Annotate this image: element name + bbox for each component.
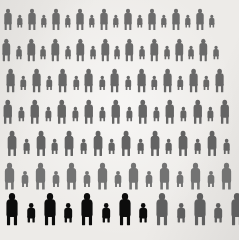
person-icon: [211, 202, 225, 228]
person-icon: [201, 75, 212, 94]
person-icon: [183, 14, 193, 32]
person-icon: [218, 99, 232, 126]
person-icon: [157, 162, 172, 192]
person-icon: [5, 130, 19, 158]
person-icon: [91, 130, 105, 158]
person-icon: [192, 138, 203, 159]
person-icon-highlighted: [116, 192, 134, 228]
pictogram-row: [0, 8, 239, 32]
person-icon-highlighted: [24, 202, 38, 228]
pictogram-row: [0, 99, 239, 126]
person-icon: [99, 38, 112, 63]
person-icon-highlighted: [61, 202, 75, 228]
person-icon: [26, 8, 38, 32]
person-icon: [63, 45, 73, 63]
person-icon: [126, 162, 141, 192]
person-icon: [153, 192, 171, 228]
person-icon: [135, 68, 148, 94]
person-icon: [112, 170, 124, 192]
person-icon: [106, 138, 117, 159]
person-icon: [187, 68, 200, 94]
person-icon: [55, 99, 69, 126]
pictogram-row: [0, 130, 239, 158]
person-icon: [211, 45, 221, 63]
person-icon: [97, 106, 108, 126]
person-icon: [39, 14, 49, 32]
person-icon: [1, 99, 15, 126]
person-icon-highlighted: [99, 202, 113, 228]
person-icon: [174, 202, 188, 228]
person-icon: [191, 192, 209, 228]
person-icon: [34, 130, 48, 158]
person-icon: [186, 45, 196, 63]
person-icon: [176, 130, 190, 158]
person-icon: [122, 8, 134, 32]
person-icon: [38, 45, 48, 63]
person-icon: [111, 14, 121, 32]
person-icon: [213, 68, 226, 94]
person-icon: [2, 162, 17, 192]
person-icon: [18, 75, 29, 94]
person-icon: [163, 99, 177, 126]
person-icon: [219, 162, 234, 192]
person-icon: [14, 45, 24, 63]
person-icon: [151, 106, 162, 126]
person-icon: [137, 45, 147, 63]
person-icon: [50, 8, 62, 32]
person-icon-highlighted: [136, 202, 150, 228]
pictogram-row: [0, 38, 239, 63]
person-icon: [173, 38, 186, 63]
person-icon: [228, 192, 239, 228]
person-icon: [170, 8, 182, 32]
person-icon: [174, 170, 186, 192]
person-icon: [70, 106, 81, 126]
person-icon: [175, 75, 186, 94]
person-icon: [87, 14, 97, 32]
person-icon: [56, 68, 69, 94]
person-icon: [81, 170, 93, 192]
person-icon: [71, 75, 82, 94]
person-icon: [78, 138, 89, 159]
person-icon: [191, 99, 205, 126]
person-icon: [19, 170, 31, 192]
person-icon: [207, 14, 217, 32]
person-icon-highlighted: [3, 192, 21, 228]
person-icon: [98, 8, 110, 32]
person-icon: [109, 99, 123, 126]
person-icon: [161, 68, 174, 94]
person-icon: [159, 14, 169, 32]
person-icon-highlighted: [41, 192, 59, 228]
person-icon: [221, 138, 232, 159]
person-icon: [4, 68, 17, 94]
person-icon: [197, 38, 210, 63]
person-icon: [205, 170, 217, 192]
person-icon: [178, 106, 189, 126]
person-icon: [108, 68, 121, 94]
pictogram-infographic: [0, 0, 239, 240]
person-icon: [135, 14, 145, 32]
pictogram-row: [0, 68, 239, 94]
person-icon: [136, 99, 150, 126]
person-icon: [2, 8, 14, 32]
person-icon: [97, 75, 108, 94]
person-icon: [143, 170, 155, 192]
person-icon: [112, 45, 122, 63]
pictogram-row: [0, 192, 239, 228]
person-icon: [188, 162, 203, 192]
person-icon: [148, 130, 162, 158]
person-icon: [44, 75, 55, 94]
person-icon: [28, 99, 42, 126]
person-icon: [74, 38, 87, 63]
person-icon: [194, 8, 206, 32]
person-icon: [123, 75, 134, 94]
person-icon-highlighted: [78, 192, 96, 228]
person-icon: [82, 99, 96, 126]
person-icon: [135, 138, 146, 159]
person-icon: [33, 162, 48, 192]
person-icon: [148, 38, 161, 63]
person-icon: [163, 138, 174, 159]
person-icon: [95, 162, 110, 192]
person-icon: [63, 14, 73, 32]
pictogram-row: [0, 162, 239, 192]
person-icon: [119, 130, 133, 158]
